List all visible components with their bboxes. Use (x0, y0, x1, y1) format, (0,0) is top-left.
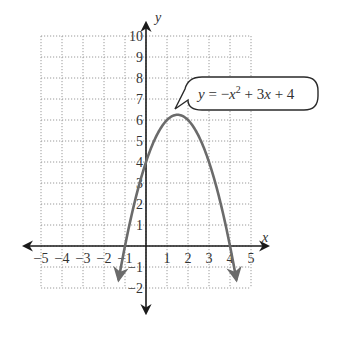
equation-label: y = −x2 + 3x + 4 (196, 84, 295, 102)
x-axis-label: x (261, 230, 269, 245)
y-tick-label: 10 (129, 29, 143, 44)
x-tick-label: −5 (34, 251, 49, 266)
x-tick-label: 5 (248, 251, 255, 266)
y-axis-label: y (153, 10, 162, 25)
y-tick-label: 6 (136, 113, 143, 128)
x-tick-label: 1 (164, 251, 171, 266)
y-tick-label: 5 (136, 134, 143, 149)
y-tick-label: 1 (136, 218, 143, 233)
y-tick-label: 7 (136, 92, 143, 107)
x-tick-label: 2 (185, 251, 192, 266)
equation-callout: y = −x2 + 3x + 4 (175, 77, 318, 110)
y-tick-label: −2 (128, 281, 143, 296)
curve-arrow-icon (235, 274, 236, 280)
graph-figure: xy −5−4−3−2−11234510987654321−1−2 y = −x… (0, 0, 338, 338)
y-tick-label: 9 (136, 50, 143, 65)
y-tick-label: 4 (136, 155, 143, 170)
x-tick-label: −2 (97, 251, 112, 266)
y-tick-label: 2 (136, 197, 143, 212)
x-tick-label: −3 (76, 251, 91, 266)
y-tick-label: 8 (136, 71, 143, 86)
y-tick-label: −1 (128, 260, 143, 275)
parabola-plot: xy −5−4−3−2−11234510987654321−1−2 y = −x… (0, 0, 338, 338)
curve-arrow-icon (119, 274, 120, 280)
x-tick-label: −4 (55, 251, 70, 266)
x-tick-label: 3 (206, 251, 213, 266)
